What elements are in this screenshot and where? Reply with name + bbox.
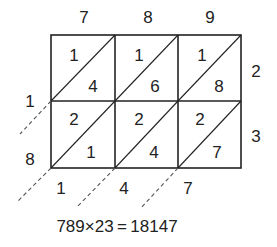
result-digit: 1 (25, 93, 34, 110)
cell-tens: 2 (69, 111, 78, 128)
multiplier-digit: 3 (251, 128, 260, 145)
multiplicand-digit: 8 (143, 9, 152, 26)
cell-ones: 7 (212, 144, 221, 161)
multiplicand-digit: 9 (205, 9, 214, 26)
cell-tens: 2 (195, 111, 204, 128)
result-digit: 7 (183, 180, 192, 197)
cell-ones: 4 (149, 144, 158, 161)
cell-tens: 2 (134, 111, 143, 128)
cell-tens: 1 (134, 47, 143, 64)
equation: 789×23 = 18147 (56, 218, 177, 235)
cell-ones: 1 (86, 144, 95, 161)
result-digit: 1 (56, 180, 65, 197)
cell-ones: 8 (214, 78, 223, 95)
result-digit: 8 (25, 151, 34, 168)
multiplicand-digit: 7 (79, 9, 88, 26)
cell-ones: 6 (150, 78, 159, 95)
multiplier-digit: 2 (251, 63, 260, 80)
cell-tens: 1 (69, 47, 78, 64)
cell-tens: 1 (197, 47, 206, 64)
result-digit: 4 (119, 180, 128, 197)
cell-ones: 4 (88, 78, 97, 95)
